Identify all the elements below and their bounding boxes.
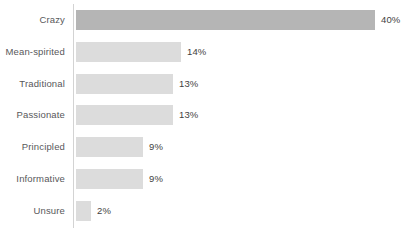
bar-row: Mean-spirited 14% (0, 42, 407, 62)
bar-row: Traditional 13% (0, 74, 407, 94)
bar-value-label: 13% (179, 105, 198, 125)
bar-chart: Crazy 40% Mean-spirited 14% Traditional … (0, 0, 407, 236)
bar-row: Unsure 2% (0, 201, 407, 221)
bar-value-label: 9% (149, 169, 163, 189)
category-label: Passionate (0, 105, 65, 125)
bar-row: Informative 9% (0, 169, 407, 189)
bar (76, 42, 181, 62)
bar-row: Crazy 40% (0, 10, 407, 30)
category-label: Unsure (0, 201, 65, 221)
bar-value-label: 9% (149, 137, 163, 157)
category-label: Informative (0, 169, 65, 189)
category-label: Principled (0, 137, 65, 157)
bar-row: Passionate 13% (0, 105, 407, 125)
bar (76, 74, 173, 94)
bar-value-label: 40% (381, 10, 400, 30)
bar-value-label: 14% (187, 42, 206, 62)
bar-value-label: 13% (179, 74, 198, 94)
category-label: Crazy (0, 10, 65, 30)
bar (76, 137, 143, 157)
category-label: Mean-spirited (0, 42, 65, 62)
category-label: Traditional (0, 74, 65, 94)
bar (76, 169, 143, 189)
bar-row: Principled 9% (0, 137, 407, 157)
bar-value-label: 2% (97, 201, 111, 221)
bar (76, 201, 91, 221)
bar (76, 10, 375, 30)
bar (76, 105, 173, 125)
